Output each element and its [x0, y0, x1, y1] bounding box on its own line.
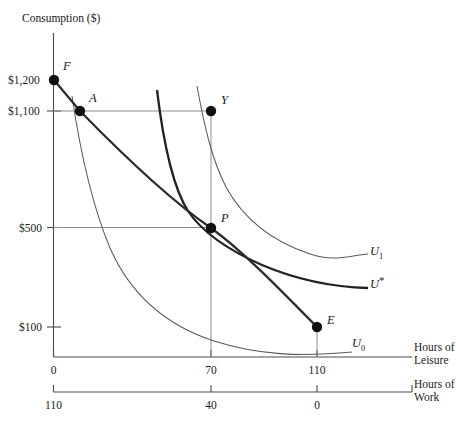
x-tick-label-work-0: 0 — [314, 399, 320, 411]
y-tick-label-1200: $1,200 — [8, 74, 40, 87]
x-tick-label-leisure-110: 110 — [309, 364, 326, 376]
curve-label-ustar: U * — [370, 274, 385, 291]
curve-label-u1: U 1 — [370, 244, 383, 261]
x-tick-label-work-110: 110 — [45, 399, 62, 411]
y-axis-title: Consumption ($) — [22, 12, 100, 25]
data-point-label-y: Y — [221, 93, 230, 107]
data-point-a[interactable] — [75, 106, 85, 116]
y-tick-label-100: $100 — [19, 321, 42, 333]
x-tick-label-leisure-0: 0 — [51, 364, 57, 376]
x-axis-work-title-line1: Hours of — [414, 378, 455, 390]
data-point-e[interactable] — [312, 322, 322, 332]
data-point-y[interactable] — [206, 106, 216, 116]
budget-constraint-line — [54, 80, 317, 327]
data-point-p[interactable] — [206, 223, 216, 233]
data-point-label-f: F — [62, 59, 71, 73]
curve-label-u1-subscript: 1 — [379, 251, 383, 261]
x-axis-work-title-line2: Work — [414, 391, 440, 403]
x-tick-label-work-40: 40 — [205, 399, 217, 411]
indifference-curve-u1 — [197, 86, 368, 258]
data-point-label-e: E — [326, 313, 335, 327]
y-tick-label-500: $500 — [19, 222, 42, 234]
chart-svg: Consumption ($) $1,200 $1,100 $500 $100 … — [0, 0, 456, 428]
data-point-label-a: A — [88, 91, 97, 105]
labor-leisure-choice-chart: Consumption ($) $1,200 $1,100 $500 $100 … — [0, 0, 456, 428]
x-axis-leisure-title-line2: Leisure — [414, 354, 448, 366]
y-tick-label-1100: $1,100 — [8, 105, 40, 118]
x-axis-leisure-title-line1: Hours of — [414, 341, 455, 353]
data-point-f[interactable] — [49, 75, 59, 85]
curve-label-ustar-subscript: * — [379, 274, 385, 286]
curve-label-u0: U 0 — [352, 336, 365, 353]
x-tick-label-leisure-70: 70 — [205, 364, 217, 376]
curve-label-u0-subscript: 0 — [361, 343, 365, 353]
data-point-label-p: P — [220, 211, 229, 225]
